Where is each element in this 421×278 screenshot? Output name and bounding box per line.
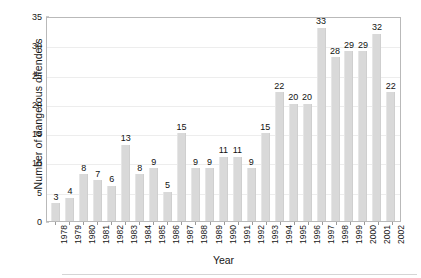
bar [65,198,74,221]
bar-slot: 32 [370,18,384,221]
x-tick-mark [364,222,365,225]
x-tick-slot: 1998 [329,223,343,253]
x-tick-mark [55,222,56,225]
x-tick-slot: 1992 [245,223,259,253]
x-tick-slot: 1986 [160,223,174,253]
y-tick-label: 10 [20,158,42,168]
bar [177,133,186,221]
bar-slot: 8 [133,18,147,221]
x-tick-slot: 1990 [217,223,231,253]
y-tick-label: 35 [20,12,42,22]
bar-value-label: 22 [379,82,403,91]
bar-slot: 7 [91,18,105,221]
bar [289,104,298,221]
x-tick-mark [139,222,140,225]
x-tick-slot: 1995 [287,223,301,253]
x-tick-mark [238,222,239,225]
plot-area: 348761389515991111915222020332829293222 [46,17,401,222]
bar-slot: 11 [230,18,244,221]
x-tick-slot: 1997 [315,223,329,253]
x-axis-title: Year [46,254,401,266]
x-tick-mark [195,222,196,225]
x-tick-slot: 1999 [343,223,357,253]
x-tick-label: 2002 [396,225,406,244]
y-tick-label: 15 [20,129,42,139]
bar [163,192,172,221]
x-tick-mark [167,222,168,225]
bar [107,186,116,221]
bar-slot: 22 [272,18,286,221]
x-tick-slot: 2001 [371,223,385,253]
y-tick-label: 30 [20,41,42,51]
x-tick-mark [181,222,182,225]
bar-series: 348761389515991111915222020332829293222 [47,18,400,221]
x-tick-mark [294,222,295,225]
x-tick-slot: 1980 [76,223,90,253]
x-tick-slot: 1989 [203,223,217,253]
x-tick-mark [378,222,379,225]
x-tick-slot: 1993 [259,223,273,253]
bar-slot: 9 [147,18,161,221]
y-tick-label: 25 [20,71,42,81]
x-axis-tick-labels: 1978197919801981198219831984198519861987… [46,223,401,253]
bar-slot: 11 [216,18,230,221]
x-tick-mark [266,222,267,225]
footer-divider [62,274,417,275]
bar-slot: 6 [105,18,119,221]
bar [331,57,340,221]
x-tick-mark [83,222,84,225]
y-axis-tick-labels: 05101520253035 [20,17,42,222]
x-tick-mark [280,222,281,225]
bar-slot: 15 [258,18,272,221]
bar-slot: 29 [356,18,370,221]
bar-slot: 20 [300,18,314,221]
x-tick-mark [111,222,112,225]
bar-slot: 13 [119,18,133,221]
x-tick-slot: 1984 [132,223,146,253]
x-tick-slot: 1983 [118,223,132,253]
bar [93,180,102,221]
bar [275,92,284,221]
x-tick-slot: 1987 [174,223,188,253]
bar-slot: 9 [244,18,258,221]
y-tick-label: 5 [20,188,42,198]
x-tick-slot: 2002 [385,223,399,253]
x-tick-mark [97,222,98,225]
x-tick-slot: 1982 [104,223,118,253]
x-tick-mark [350,222,351,225]
bar [149,168,158,221]
x-tick-slot: 1981 [90,223,104,253]
bar-slot: 8 [77,18,91,221]
bar [358,51,367,221]
x-tick-mark [224,222,225,225]
y-tick-label: 0 [20,217,42,227]
x-tick-slot: 1994 [273,223,287,253]
bar [247,168,256,221]
bar-slot: 4 [63,18,77,221]
x-tick-mark [252,222,253,225]
x-tick-mark [69,222,70,225]
x-tick-slot: 1979 [62,223,76,253]
bar [51,203,60,221]
bar [219,157,228,221]
x-tick-mark [125,222,126,225]
x-tick-slot: 1988 [188,223,202,253]
bar [372,34,381,221]
bar [261,133,270,221]
bar [344,51,353,221]
x-tick-slot: 1985 [146,223,160,253]
bar [79,174,88,221]
bar-slot: 5 [161,18,175,221]
x-tick-mark [153,222,154,225]
bar-slot: 22 [384,18,398,221]
x-tick-slot: 1996 [301,223,315,253]
x-tick-mark [210,222,211,225]
bar [135,174,144,221]
bar [191,168,200,221]
bar [303,104,312,221]
bar-slot: 20 [286,18,300,221]
bar-chart-figure: Number of dangerous offenders 0510152025… [0,0,421,278]
bar [121,145,130,221]
x-tick-slot: 1991 [231,223,245,253]
x-tick-mark [308,222,309,225]
